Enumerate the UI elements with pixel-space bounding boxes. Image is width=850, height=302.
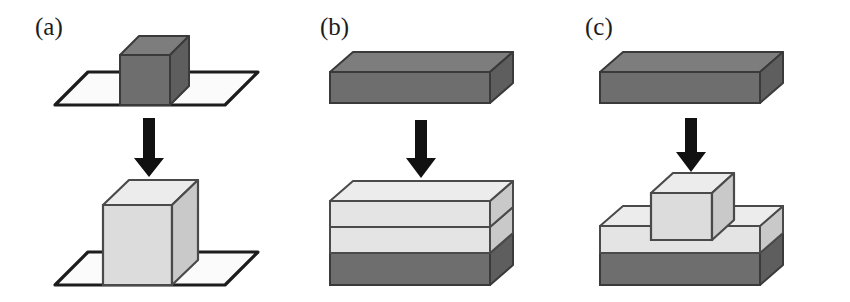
light-cube-front (651, 193, 712, 240)
process-arrow (676, 118, 706, 172)
light-top-layer-top (330, 181, 513, 201)
dark-slab-front (600, 72, 760, 103)
panel-b-arrow (406, 120, 436, 178)
panel-c-after (600, 173, 783, 285)
panel-c-before (600, 52, 783, 103)
panel-b-after (330, 181, 513, 285)
light-top-layer-front (330, 201, 490, 227)
dark-base-layer-front (600, 253, 760, 285)
process-arrow (134, 118, 164, 177)
dark-slab-top (330, 52, 513, 72)
dark-cube-front (120, 55, 170, 105)
panel-b-before (330, 52, 513, 103)
figure-root: (a) (0, 0, 850, 302)
light-middle-layer-front (330, 227, 490, 253)
light-cube-front (103, 205, 172, 285)
dark-base-layer-front (330, 253, 490, 285)
panel-a-before (55, 36, 258, 105)
panel-a-graphic (0, 0, 290, 302)
panel-b-graphic (275, 0, 565, 302)
panel-c-arrow (676, 118, 706, 172)
dark-slab-top (600, 52, 783, 72)
panel-c: (c) (545, 0, 835, 302)
panel-c-graphic (545, 0, 835, 302)
dark-slab-front (330, 72, 490, 103)
panel-a-after (55, 180, 258, 285)
process-arrow (406, 120, 436, 178)
panel-a-arrow (134, 118, 164, 177)
panel-b: (b) (275, 0, 565, 302)
panel-a: (a) (0, 0, 290, 302)
